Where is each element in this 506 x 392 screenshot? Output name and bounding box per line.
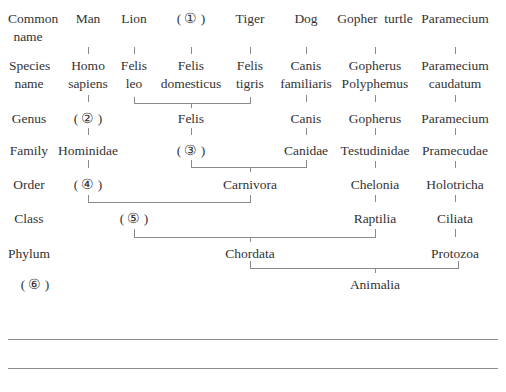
answer-line-1 [8, 339, 498, 340]
connector-lines [0, 0, 506, 392]
answer-line-2 [8, 368, 498, 369]
